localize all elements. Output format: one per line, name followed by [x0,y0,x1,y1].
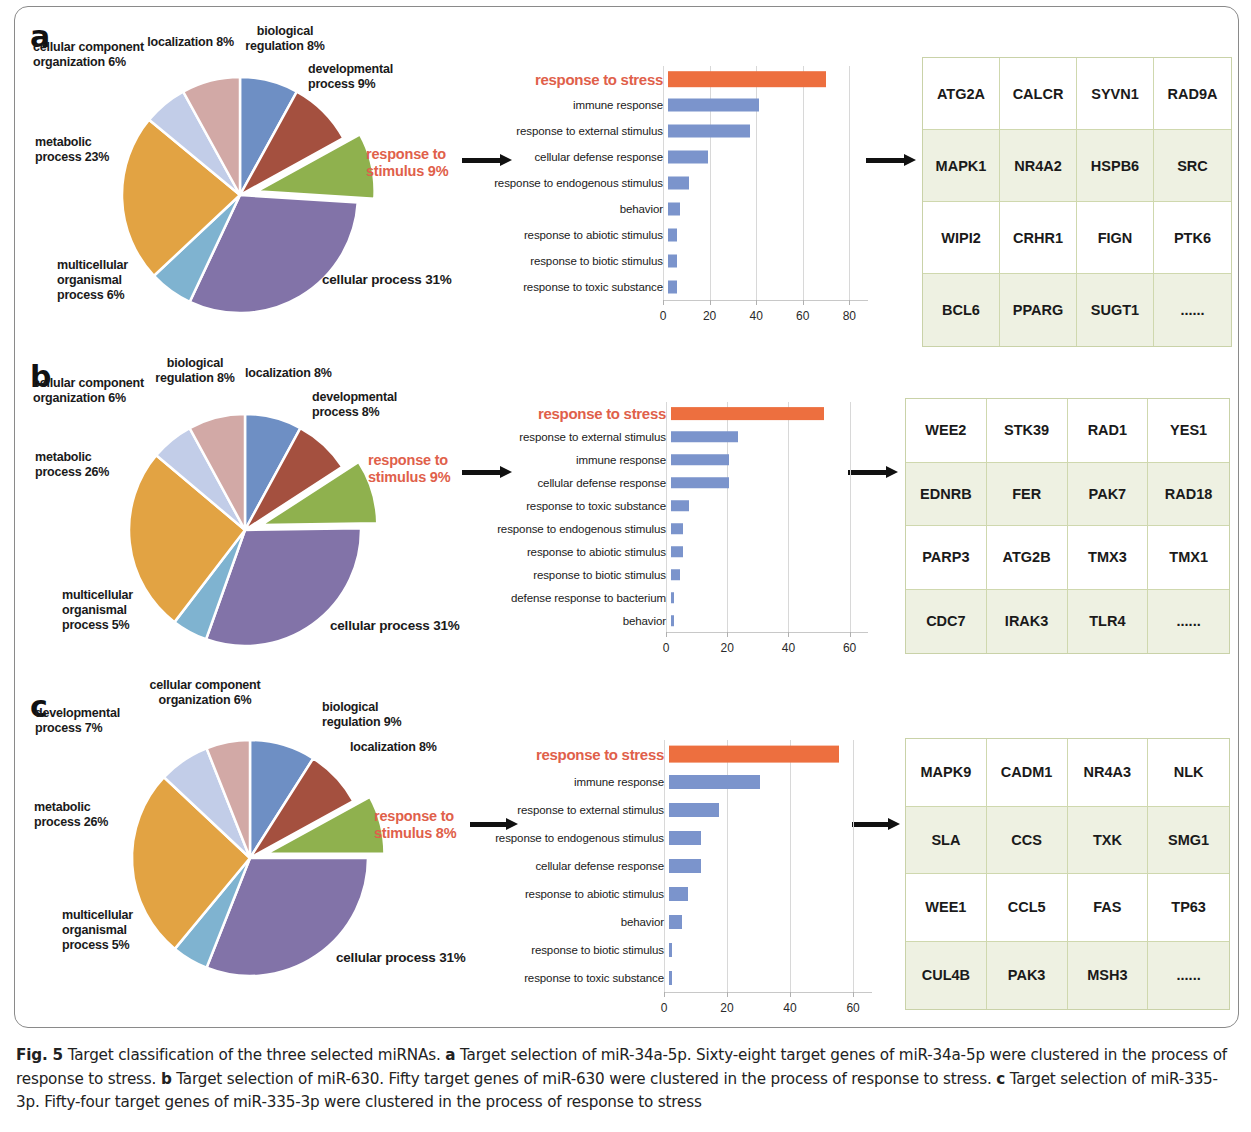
gene-cell: PARP3 [906,526,987,590]
figure-caption: Fig. 5 Target classification of the thre… [16,1044,1238,1115]
x-axis-tick-label: 20 [721,641,734,655]
bar [671,523,683,535]
gene-cell: IRAK3 [987,590,1068,654]
bar-plot-area [668,118,868,144]
bar [669,859,701,873]
bar [671,431,738,443]
bar-plot-area [671,540,868,563]
gene-cell: STK39 [987,399,1068,463]
bar [671,477,729,489]
bar [669,775,760,789]
bar-plot-area [669,908,872,936]
bar-plot-area [668,274,868,300]
pie-slice-label: metabolic process 26% [35,450,145,480]
bar-plot-area [671,471,868,494]
bar-row: response to external stimulus [448,425,868,448]
gene-cell: NLK [1148,739,1229,807]
bar-row: immune response [448,92,868,118]
bar-plot-area [669,796,872,824]
bar-label: cellular defense response [448,477,671,489]
x-axis-tick-label: 20 [720,1001,733,1015]
gene-cell: PAK7 [1068,463,1149,527]
bar [671,454,729,466]
bar-plot-area [668,222,868,248]
bar-plot-area [669,740,872,768]
gene-cell: ...... [1154,274,1231,346]
bar-plot-area [671,425,868,448]
bar-row: response to toxic substance [452,964,872,992]
bar-label: response to external stimulus [448,431,671,443]
x-axis-tick [727,992,728,997]
caption-intro: Target classification of the three selec… [63,1046,445,1064]
gene-cell: WEE1 [906,874,987,942]
bar-chart-b: response to stressresponse to external s… [448,402,868,632]
x-axis-tick [849,300,850,305]
bar-plot-area [668,196,868,222]
bar-label: behavior [452,916,669,928]
bar-plot-area [671,517,868,540]
x-axis-tick-label: 40 [783,1001,796,1015]
gene-cell: TMX1 [1148,526,1229,590]
gene-cell: MSH3 [1068,942,1149,1010]
bar-label: response to stress [448,71,668,88]
bar-row: response to abiotic stimulus [448,222,868,248]
bar [668,255,677,268]
bar-row: response to external stimulus [448,118,868,144]
x-axis-tick [663,300,664,305]
bar-plot-area [671,586,868,609]
x-axis-tick-label: 60 [846,1001,859,1015]
pie-slice-label: localization 8% [133,35,248,50]
bar-label: behavior [448,203,668,215]
bar-label: response to abiotic stimulus [452,888,669,900]
x-axis-tick [727,632,728,637]
bar-label: behavior [448,615,671,627]
x-axis-tick [803,300,804,305]
figure-root: abiological regulation 8%developmental p… [0,0,1251,1132]
gene-cell: SUGT1 [1077,274,1154,346]
bar-row: behavior [448,196,868,222]
bar [671,546,683,558]
bar-plot-area [668,170,868,196]
bar-label: immune response [448,454,671,466]
bar-label: response to abiotic stimulus [448,229,668,241]
gene-cell: WEE2 [906,399,987,463]
bar-plot-area [671,494,868,517]
bar-label: cellular defense response [448,151,668,163]
pie-slice-label: metabolic process 26% [34,800,144,830]
pie-slice-label: multicellular organismal process 5% [62,908,197,952]
pie-slice-label: localization 8% [245,366,355,381]
pie-slice-label: metabolic process 23% [35,135,140,165]
bar-label: response to stress [448,405,671,422]
gene-cell: SRC [1154,130,1231,202]
gene-cell: NR4A3 [1068,739,1149,807]
bar-plot-area [669,880,872,908]
bar [669,915,682,929]
bar-plot-area [668,66,868,92]
gene-table-a: ATG2ACALCRSYVN1RAD9AMAPK1NR4A2HSPB6SRCWI… [922,57,1232,347]
gene-cell: ...... [1148,590,1229,654]
bar [671,592,674,604]
caption-text-b: Target selection of miR-630. Fifty targe… [172,1070,997,1088]
bar-row: cellular defense response [448,471,868,494]
gene-cell: ATG2A [923,58,1000,130]
x-axis-tick [788,632,789,637]
bar-label: response to biotic stimulus [448,255,668,267]
bar-row: response to toxic substance [448,274,868,300]
bar-row: immune response [452,768,872,796]
x-axis-tick-label: 60 [796,309,809,323]
gene-cell: SYVN1 [1077,58,1154,130]
bar-row: response to abiotic stimulus [452,880,872,908]
bar [669,887,688,901]
bar [668,281,677,294]
pie-slice-label: developmental process 9% [308,62,438,92]
gene-cell: PAK3 [987,942,1068,1010]
x-axis-tick-label: 80 [843,309,856,323]
x-axis-tick-label: 0 [661,1001,668,1015]
bar [669,803,719,817]
bar-plot-area [668,248,868,274]
caption-label-a: a [445,1046,455,1064]
x-axis-tick-label: 40 [782,641,795,655]
gene-cell: ...... [1148,942,1229,1010]
bar-label: response to biotic stimulus [452,944,669,956]
bar-row: response to endogenous stimulus [448,170,868,196]
